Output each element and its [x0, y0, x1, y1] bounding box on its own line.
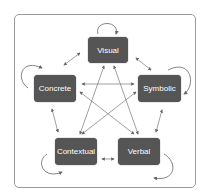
arrow-concrete-contextual: [52, 109, 58, 132]
node-label: Contextual: [57, 147, 95, 156]
node-concrete: Concrete: [34, 75, 76, 102]
node-symbolic: Symbolic: [138, 75, 181, 102]
arrow-concrete-verbal: [80, 92, 134, 134]
node-label: Visual: [97, 46, 119, 55]
arrow-symbolic-contextual: [82, 92, 136, 134]
arrow-visual-symbolic: [136, 58, 151, 70]
node-label: Verbal: [128, 147, 151, 156]
node-label: Symbolic: [143, 84, 175, 93]
arrow-visual-contextual: [80, 66, 104, 134]
arrow-visual-concrete: [64, 53, 80, 65]
node-label: Concrete: [39, 84, 71, 93]
self-loop-visual: [98, 24, 117, 35]
node-visual: Visual: [88, 37, 128, 63]
arrow-symbolic-verbal: [156, 110, 162, 132]
node-verbal: Verbal: [118, 138, 160, 165]
node-contextual: Contextual: [55, 138, 97, 165]
